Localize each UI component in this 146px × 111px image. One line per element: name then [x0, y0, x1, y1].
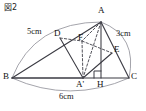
right-angle-marker-h: [94, 71, 101, 78]
point-label-f: F: [78, 33, 83, 42]
segment-d-aprime: [60, 38, 83, 78]
figure-caption: 図2: [4, 3, 17, 13]
figure-container: 図2 A B C D E F A' H 5cm 3cm 6cm: [0, 0, 146, 111]
point-label-c: C: [131, 72, 137, 81]
point-label-d: D: [54, 29, 61, 38]
arc-side-bc: [12, 78, 129, 91]
segment-f-aprime: [82, 41, 83, 78]
segment-f-e: [82, 41, 112, 53]
point-label-b: B: [3, 72, 9, 81]
point-label-e: E: [114, 45, 120, 54]
length-label-ac: 3cm: [116, 29, 131, 38]
point-label-a-prime: A': [76, 80, 84, 89]
length-label-ba: 5cm: [27, 27, 42, 36]
point-label-a: A: [98, 6, 105, 15]
point-label-h: H: [97, 80, 104, 89]
dashed-segment-layer: [60, 22, 112, 78]
length-label-bc: 6cm: [59, 92, 74, 101]
